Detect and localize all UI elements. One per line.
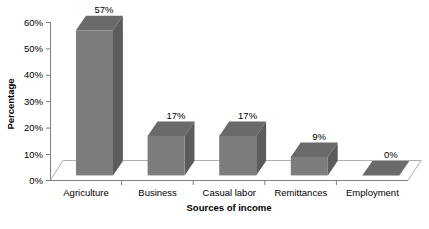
bar-agriculture[interactable] xyxy=(76,16,123,176)
cat-label-agriculture: Agriculture xyxy=(63,187,108,198)
y-tick-label-0: 0% xyxy=(29,175,43,186)
y-axis: 60% 50% 40% 30% 20% 10% 0% Percentage xyxy=(5,17,51,186)
cat-label-remittances: Remittances xyxy=(274,187,327,198)
y-tick-label-30: 30% xyxy=(24,96,44,107)
bar-remittances-front xyxy=(291,157,328,175)
data-label-business: 17% xyxy=(166,110,186,121)
bar-remittances[interactable] xyxy=(291,143,338,176)
bar-casual-labor[interactable] xyxy=(219,121,266,175)
floor-left-diagonal xyxy=(50,161,63,181)
bar-agriculture-side xyxy=(113,16,123,176)
floor-right-diagonal xyxy=(408,161,421,181)
cat-label-business: Business xyxy=(138,187,177,198)
data-label-employment: 0% xyxy=(384,149,398,160)
x-axis-labels: Agriculture Business Casual labor Remitt… xyxy=(63,187,399,213)
y-tick-label-60: 60% xyxy=(24,17,44,28)
cat-label-employment: Employment xyxy=(346,187,399,198)
data-label-remittances: 9% xyxy=(312,131,326,142)
bar-business[interactable] xyxy=(148,121,195,175)
bar-employment[interactable] xyxy=(362,161,409,176)
bar-chart: 60% 50% 40% 30% 20% 10% 0% Percentage xyxy=(0,0,429,229)
x-axis-ticks xyxy=(122,181,337,186)
y-tick-label-20: 20% xyxy=(24,122,44,133)
chart-container: 60% 50% 40% 30% 20% 10% 0% Percentage xyxy=(0,0,429,229)
y-axis-title: Percentage xyxy=(5,78,16,129)
y-tick-label-10: 10% xyxy=(24,149,44,160)
y-tick-label-50: 50% xyxy=(24,43,44,54)
bar-employment-top xyxy=(362,161,409,176)
y-tick-label-40: 40% xyxy=(24,69,44,80)
bar-agriculture-front xyxy=(76,30,113,175)
bar-casual-labor-front xyxy=(219,136,256,176)
x-axis-title: Sources of income xyxy=(187,202,272,213)
data-label-agriculture: 57% xyxy=(94,4,114,15)
bar-business-front xyxy=(148,136,185,176)
cat-label-casual-labor: Casual labor xyxy=(203,187,256,198)
data-label-casual-labor: 17% xyxy=(238,110,258,121)
